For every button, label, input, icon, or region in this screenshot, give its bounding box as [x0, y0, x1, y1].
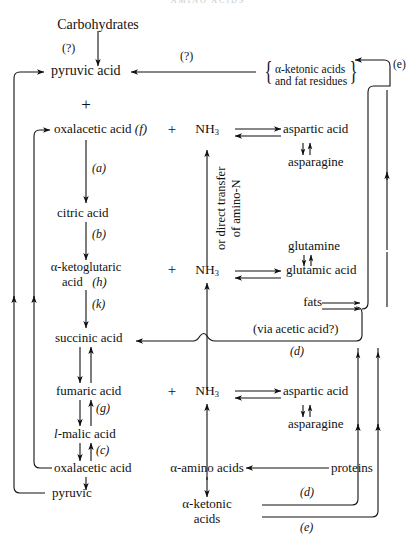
- node-pyruvic-bottom: pyruvic: [52, 486, 92, 500]
- node-ketoglutaric-acid: α-ketoglutaric: [51, 261, 121, 274]
- annotation-q-top-arrow: (?): [180, 50, 193, 63]
- annotation-q-carbohydrates: (?): [62, 42, 75, 55]
- node-glutamine: glutamine: [288, 239, 340, 253]
- node-proteins: proteins: [331, 461, 373, 475]
- diagram-canvas: AMINO ACIDS: [0, 0, 416, 551]
- node-fats: fats: [303, 295, 322, 309]
- line-right-bus-up: [362, 78, 390, 309]
- node-amino-acids: α-amino acids: [170, 461, 244, 475]
- annotation-b: (b): [92, 228, 106, 241]
- node-citric-acid: citric acid: [57, 206, 109, 220]
- node-nh3-mid: NH3: [195, 263, 219, 279]
- node-ketonic-acids-top: α-ketonic acids: [275, 63, 345, 75]
- plus-sign-aspartic-top: +: [168, 122, 176, 138]
- node-succinic-acid: succinic acid: [55, 331, 123, 345]
- node-asparagine-top: asparagine: [288, 155, 344, 169]
- annotation-e-bottom: (e): [300, 521, 313, 534]
- loop-outer-left: [14, 72, 45, 493]
- plus-sign-top: +: [81, 96, 91, 114]
- annotation-a: (a): [92, 162, 106, 175]
- node-oxalacetic-acid-top: oxalacetic acid (f): [54, 122, 147, 136]
- plus-sign-aspartic-bottom: +: [168, 384, 176, 400]
- node-nh3-top: NH3: [195, 122, 219, 138]
- annotation-d-bottom: (d): [300, 486, 314, 499]
- node-fumaric-acid: fumaric acid: [56, 384, 121, 398]
- node-ketonic-acids-bottom: α-ketonicacids: [182, 497, 231, 526]
- right-brace: }: [350, 58, 358, 85]
- node-pyruvic-acid: pyruvic acid: [51, 64, 121, 79]
- node-aspartic-acid-bottom: aspartic acid: [283, 384, 348, 398]
- ketonic-fat-residues-block: {α-ketonic acidsand fat residues}: [262, 58, 360, 88]
- plus-sign-glutamic: +: [168, 262, 176, 278]
- arrow-e-bottom: [262, 352, 378, 517]
- node-nh3-bottom: NH3: [195, 384, 219, 400]
- annotation-d-mid: (d): [290, 345, 304, 358]
- arrow-e-into-ketonic-block: [355, 60, 390, 78]
- node-aspartic-acid-top: aspartic acid: [283, 122, 348, 136]
- loop-inner-left: [34, 130, 52, 468]
- annotation-c: (c): [96, 444, 109, 457]
- line-d-riser: [356, 307, 362, 341]
- node-ketoglutaric-acid-line2: acid (h): [62, 276, 107, 289]
- annotation-k: (k): [92, 298, 105, 311]
- node-carbohydrates: Carbohydrates: [57, 18, 139, 33]
- node-l-malic-acid: l-malic acid: [54, 427, 116, 441]
- node-glutamic-acid: glutamic acid: [286, 263, 356, 277]
- annotation-via-acetic-acid: (via acetic acid?): [253, 323, 338, 336]
- annotation-e-top: (e): [393, 58, 406, 70]
- node-asparagine-bottom: asparagine: [288, 417, 344, 431]
- note-direct-transfer: or direct transfer of amino-N: [214, 167, 244, 250]
- node-oxalacetic-acid-bottom: oxalacetic acid: [54, 461, 132, 475]
- annotation-g: (g): [96, 402, 110, 415]
- node-fat-residues: and fat residues: [275, 75, 347, 87]
- left-brace: {: [264, 58, 272, 85]
